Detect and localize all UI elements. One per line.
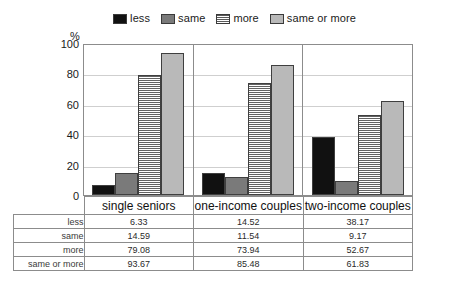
bar-same-or-more-two-income-couples: [381, 101, 404, 195]
bar-less-one-income-couples: [202, 173, 225, 195]
table-cell-same-or-more-two-income-couples: 61.83: [303, 257, 413, 271]
bar-same-or-more-single-seniors: [161, 53, 184, 195]
legend-label-same-or-more: same or more: [287, 13, 356, 24]
chart-figure: less same more same or more % 1008060402…: [0, 0, 469, 289]
legend-label-same: same: [178, 13, 205, 24]
bar-less-two-income-couples: [312, 137, 335, 195]
y-axis-tick-100: 100: [61, 39, 79, 50]
table-cell-same-or-more-one-income-couples: 85.48: [194, 257, 304, 271]
y-axis-tick-80: 80: [67, 69, 79, 80]
y-axis-tick-60: 60: [67, 100, 79, 111]
plot-frame: [83, 44, 413, 196]
bar-same-or-more-one-income-couples: [271, 65, 294, 195]
table-cell-less-two-income-couples: 38.17: [303, 215, 413, 229]
table-cell-same-or-more-single-seniors: 93.67: [84, 257, 194, 271]
table-cell-less-one-income-couples: 14.52: [194, 215, 304, 229]
legend-item-same: same: [161, 13, 205, 24]
legend-item-more: more: [216, 13, 258, 24]
table-cell-more-one-income-couples: 73.94: [194, 243, 304, 257]
table-cell-less-single-seniors: 6.33: [84, 215, 194, 229]
table-corner-cell: [14, 197, 85, 215]
data-table: single seniorsone-income couplestwo-inco…: [13, 196, 413, 271]
y-axis-tick-40: 40: [67, 130, 79, 141]
table-row: same or more93.6785.4861.83: [14, 257, 413, 271]
table-row: same14.5911.549.17: [14, 229, 413, 243]
table-row: less6.3314.5238.17: [14, 215, 413, 229]
bars: [84, 45, 193, 195]
legend-swatch-less-icon: [113, 14, 127, 24]
bar-group-one-income-couples: [193, 45, 303, 195]
y-axis-tick-labels: 100806040200: [46, 44, 79, 196]
bar-more-single-seniors: [138, 75, 161, 195]
bar-more-one-income-couples: [248, 83, 271, 195]
table-header-row: single seniorsone-income couplestwo-inco…: [14, 197, 413, 215]
bar-same-single-seniors: [115, 173, 138, 195]
bar-group-single-seniors: [84, 45, 193, 195]
table-row-label-more: more: [14, 243, 85, 257]
chart-legend: less same more same or more: [0, 13, 469, 24]
legend-swatch-more-icon: [216, 14, 230, 24]
bar-less-single-seniors: [92, 185, 115, 195]
bar-more-two-income-couples: [358, 115, 381, 195]
table-row-label-same-or-more: same or more: [14, 257, 85, 271]
table-cell-more-two-income-couples: 52.67: [303, 243, 413, 257]
legend-label-more: more: [233, 13, 258, 24]
bar-group-two-income-couples: [302, 45, 412, 195]
plot-area: [83, 44, 413, 196]
legend-label-less: less: [130, 13, 150, 24]
legend-item-same-or-more: same or more: [270, 13, 356, 24]
bar-same-one-income-couples: [225, 177, 248, 195]
bar-groups: [84, 45, 412, 195]
legend-swatch-same-or-more-icon: [270, 14, 284, 24]
table-row-label-less: less: [14, 215, 85, 229]
table-cell-same-two-income-couples: 9.17: [303, 229, 413, 243]
data-table-body: single seniorsone-income couplestwo-inco…: [14, 197, 413, 271]
bars: [194, 45, 303, 195]
bar-same-two-income-couples: [335, 181, 358, 195]
bars: [303, 45, 412, 195]
table-cell-same-one-income-couples: 11.54: [194, 229, 304, 243]
table-row: more79.0873.9452.67: [14, 243, 413, 257]
table-row-label-same: same: [14, 229, 85, 243]
table-column-header-one-income-couples: one-income couples: [194, 197, 304, 215]
y-axis-tick-20: 20: [67, 161, 79, 172]
table-column-header-two-income-couples: two-income couples: [303, 197, 413, 215]
legend-swatch-same-icon: [161, 14, 175, 24]
table-column-header-single-seniors: single seniors: [84, 197, 194, 215]
table-cell-more-single-seniors: 79.08: [84, 243, 194, 257]
legend-item-less: less: [113, 13, 150, 24]
table-cell-same-single-seniors: 14.59: [84, 229, 194, 243]
